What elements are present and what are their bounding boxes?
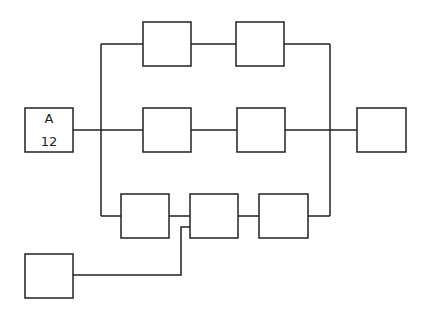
block-top-2[interactable] [236,22,284,66]
block-mid-1[interactable] [143,108,191,152]
block-top-1[interactable] [143,22,191,66]
block-bottom-1[interactable] [121,194,169,238]
block-bottom-2[interactable] [190,194,238,238]
block-diagram [0,0,427,316]
block-a-title: A [25,111,73,126]
block-bottom-3[interactable] [259,194,308,238]
block-output[interactable] [357,108,406,152]
block-mid-2[interactable] [237,108,285,152]
block-source[interactable] [25,254,73,298]
block-a-value: 12 [25,134,73,149]
